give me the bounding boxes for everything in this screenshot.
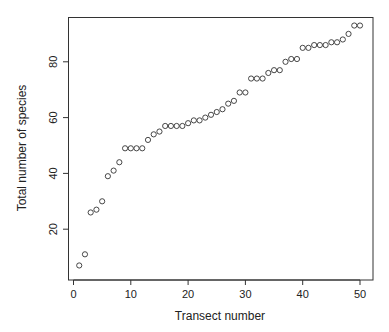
data-points [77, 23, 363, 268]
data-point [88, 210, 93, 215]
data-point [306, 45, 311, 50]
data-point [271, 68, 276, 73]
x-axis: 01020304050 [70, 280, 366, 300]
data-point [100, 199, 105, 204]
data-point [168, 123, 173, 128]
data-point [226, 101, 231, 106]
data-point [117, 160, 122, 165]
data-point [220, 107, 225, 112]
data-point [186, 121, 191, 126]
data-point [340, 37, 345, 42]
data-point [191, 118, 196, 123]
y-tick-label: 20 [47, 223, 59, 235]
data-point [294, 56, 299, 61]
x-tick-label: 30 [239, 288, 251, 300]
data-point [357, 23, 362, 28]
data-point [174, 123, 179, 128]
data-point [128, 146, 133, 151]
data-point [157, 129, 162, 134]
data-point [254, 76, 259, 81]
data-point [346, 31, 351, 36]
x-tick-label: 10 [125, 288, 137, 300]
x-tick-label: 20 [182, 288, 194, 300]
data-point [277, 68, 282, 73]
y-axis-label: Total number of species [15, 85, 29, 212]
data-point [140, 146, 145, 151]
data-point [214, 109, 219, 114]
data-point [208, 112, 213, 117]
data-point [260, 76, 265, 81]
data-point [180, 123, 185, 128]
data-point [329, 40, 334, 45]
x-tick-label: 50 [354, 288, 366, 300]
data-point [145, 137, 150, 142]
data-point [163, 123, 168, 128]
data-point [82, 252, 87, 257]
data-point [249, 76, 254, 81]
data-point [283, 59, 288, 64]
data-point [151, 132, 156, 137]
data-point [317, 42, 322, 47]
y-tick-label: 80 [47, 56, 59, 68]
data-point [94, 207, 99, 212]
data-point [197, 118, 202, 123]
data-point [77, 263, 82, 268]
x-tick-label: 40 [297, 288, 309, 300]
data-point [203, 115, 208, 120]
plot-frame [69, 18, 374, 281]
data-point [352, 23, 357, 28]
data-point [266, 70, 271, 75]
data-point [237, 90, 242, 95]
data-point [334, 40, 339, 45]
x-tick-label: 0 [70, 288, 76, 300]
data-point [300, 45, 305, 50]
data-point [105, 174, 110, 179]
data-point [289, 56, 294, 61]
y-tick-label: 40 [47, 167, 59, 179]
y-tick-label: 60 [47, 111, 59, 123]
data-point [231, 98, 236, 103]
data-point [134, 146, 139, 151]
y-axis: 20406080 [47, 56, 69, 236]
data-point [122, 146, 127, 151]
x-axis-label: Transect number [175, 309, 265, 323]
data-point [243, 90, 248, 95]
data-point [111, 168, 116, 173]
data-point [312, 42, 317, 47]
data-point [323, 42, 328, 47]
